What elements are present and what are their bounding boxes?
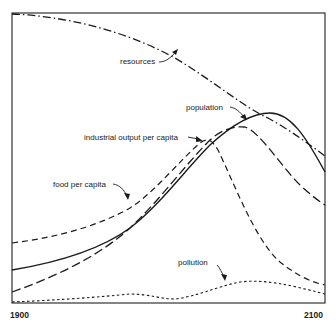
series-pollution: [12, 281, 325, 302]
label-resources: resources: [120, 57, 155, 66]
series-industrial-output: [12, 127, 325, 292]
label-industrial-output: industrial output per capita: [84, 133, 178, 142]
x-axis-end-label: 2100: [304, 310, 323, 320]
arrow-population-icon: [230, 107, 244, 117]
series-food: [12, 140, 325, 285]
x-axis-start-label: 1900: [10, 310, 29, 320]
label-food: food per capita: [53, 180, 106, 189]
arrowhead-population-icon: [240, 114, 247, 120]
chart-canvas: resources population industrial output p…: [0, 0, 336, 331]
arrowhead-food-icon: [124, 193, 130, 200]
arrowhead-resources-icon: [172, 49, 178, 55]
label-pollution: pollution: [178, 258, 208, 267]
arrowhead-industrial-icon: [196, 136, 203, 142]
label-population: population: [186, 103, 223, 112]
arrowhead-pollution-icon: [221, 274, 227, 281]
